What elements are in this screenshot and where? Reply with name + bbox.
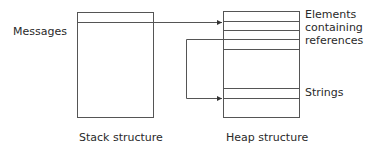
heap-structure-box: [224, 12, 300, 118]
stack-structure-box: [78, 13, 154, 118]
elements-annotation-line-2: containing: [305, 22, 363, 34]
string-reference-arrow: [187, 40, 224, 99]
heap-structure-caption: Heap structure: [226, 132, 308, 144]
elements-annotation-line-3: references: [305, 35, 363, 47]
strings-annotation: Strings: [305, 87, 344, 99]
elements-annotation-line-1: Elements: [305, 9, 356, 21]
stack-structure-caption: Stack structure: [79, 132, 163, 144]
messages-label: Messages: [13, 26, 67, 38]
